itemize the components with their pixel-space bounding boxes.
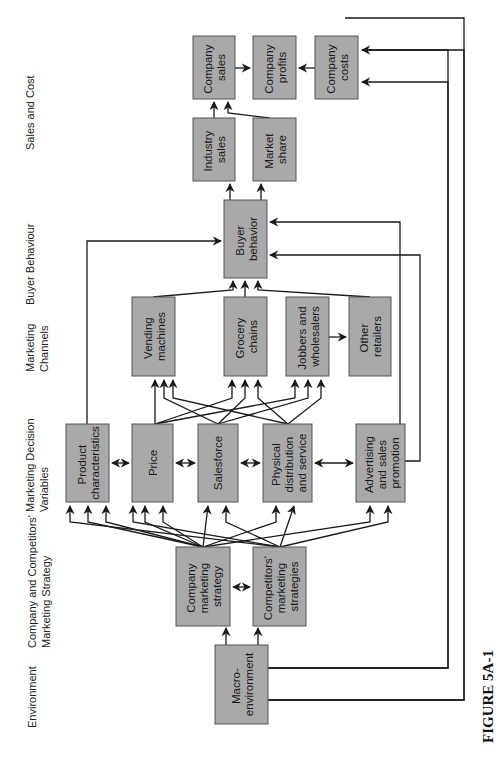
column-label-sales-cost: Sales and Cost [24, 75, 36, 150]
column-labels: Sales and Cost Buyer Behaviour Marketing… [24, 75, 52, 728]
node-vending-machines: Vending machines [132, 297, 175, 376]
node-macro-environment: Macro- environment [215, 645, 268, 724]
node-market-share: Market share [253, 118, 296, 181]
node-physical-distribution: Physical distribution and service [263, 424, 312, 502]
node-company-profits: Company profits [253, 36, 296, 99]
svg-text:Price: Price [147, 450, 159, 476]
svg-text:Grocery chains: Grocery chains [234, 314, 259, 358]
svg-text:Vending machines: Vending machines [142, 312, 167, 361]
node-grocery-chains: Grocery chains [224, 297, 267, 376]
node-jobbers-wholesalers: Jobbers and wholesalers [286, 297, 329, 376]
node-company-sales: Company sales [193, 36, 235, 99]
svg-text:Advertising and sales: Advertising and sales promotion [363, 433, 401, 493]
edges-decision-to-channels [155, 380, 321, 424]
svg-text:Competitors' marketing: Competitors' marketing strategies [262, 553, 300, 620]
column-label-environment: Environment [26, 666, 38, 728]
node-other-retailers: Other retailers [349, 297, 391, 376]
svg-text:Other retailers: Other retailers [358, 316, 383, 357]
node-company-costs: Company costs [315, 36, 358, 99]
node-competitors-marketing-strategies: Competitors' marketing strategies [253, 547, 306, 626]
node-buyer-behavior: Buyer behavior [224, 200, 267, 278]
node-salesforce: Salesforce [198, 424, 238, 502]
svg-text:Buyer behavior: Buyer behavior [234, 217, 259, 261]
node-advertising-promotion: Advertising and sales promotion [356, 424, 405, 502]
edges-strategy-to-decision [70, 506, 388, 547]
edge-vending-to-buyer [153, 281, 233, 297]
figure-label: FIGURE 5A-1 [480, 650, 496, 743]
svg-text:Physical distribution: Physical distribution and service [270, 434, 308, 493]
node-industry-sales: Industry sales [193, 118, 235, 181]
column-label-marketing-channels: Marketing Channels [24, 321, 50, 372]
svg-text:Market share: Market share [263, 130, 288, 168]
column-label-marketing-decision: Marketing Decision Variables [24, 415, 50, 512]
node-company-marketing-strategy: Company marketing strategy [176, 547, 230, 626]
marketing-model-diagram: Sales and Cost Buyer Behaviour Marketing… [0, 0, 501, 770]
svg-text:Company marketing: Company marketing strategy [185, 560, 223, 614]
svg-text:Jobbers and wholesalers: Jobbers and wholesalers [296, 303, 321, 370]
svg-text:Salesforce: Salesforce [212, 436, 224, 490]
node-product-characteristics: Product characteristics [66, 424, 109, 502]
column-label-strategy: Company and Competitors' Marketing Strat… [26, 512, 52, 648]
node-price: Price [132, 424, 173, 502]
edge-market-share-to-company-sales [228, 102, 270, 118]
edge-other-retailers-to-buyer [258, 281, 370, 297]
column-label-buyer-behaviour: Buyer Behaviour [24, 223, 36, 305]
